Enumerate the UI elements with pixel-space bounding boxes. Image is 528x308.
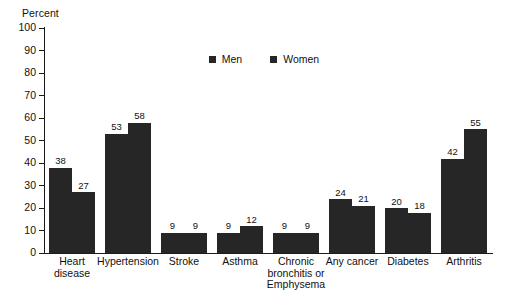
bar-group: 912	[217, 28, 263, 253]
bar-group: 99	[161, 28, 207, 253]
bar-value-label: 9	[170, 221, 175, 231]
bar-men: 9	[161, 233, 184, 253]
bar-value-label: 18	[414, 201, 425, 211]
bar-value-label: 53	[111, 122, 122, 132]
bar-women: 27	[72, 192, 95, 253]
bar-value-label: 38	[55, 156, 66, 166]
bar-women: 9	[184, 233, 207, 253]
bar-value-label: 27	[78, 181, 89, 191]
bar-men: 53	[105, 134, 128, 253]
y-axis-tick-label: 60	[24, 111, 36, 123]
bar-value-label: 9	[193, 221, 198, 231]
y-axis-title: Percent	[22, 7, 59, 19]
category-label-line: disease	[38, 268, 106, 280]
y-axis-tick-label: 0	[30, 246, 36, 258]
bar-women: 9	[296, 233, 319, 253]
bar-value-label: 9	[305, 221, 310, 231]
bar-group: 2018	[385, 28, 431, 253]
bar-group: 5358	[105, 28, 151, 253]
y-axis-tick-label: 80	[24, 66, 36, 78]
bar-women: 18	[408, 213, 431, 254]
bar-group: 4255	[441, 28, 487, 253]
bar-men: 38	[49, 168, 72, 254]
bar-value-label: 9	[226, 221, 231, 231]
bar-group: 3827	[49, 28, 95, 253]
bar-women: 21	[352, 206, 375, 253]
y-axis-tick-label: 10	[24, 224, 36, 236]
y-axis-tick-label: 30	[24, 179, 36, 191]
y-axis-tick-label: 40	[24, 156, 36, 168]
x-axis-line	[44, 253, 493, 254]
bar-value-label: 21	[358, 194, 369, 204]
bar-chart: Percent 1009080706050403020100 382753589…	[0, 0, 528, 308]
bar-value-label: 24	[335, 188, 346, 198]
bar-men: 20	[385, 208, 408, 253]
bar-men: 9	[217, 233, 240, 253]
bar-value-label: 9	[282, 221, 287, 231]
bar-value-label: 58	[134, 111, 145, 121]
bar-value-label: 55	[470, 118, 481, 128]
bar-value-label: 42	[447, 147, 458, 157]
bar-value-label: 12	[246, 215, 257, 225]
x-axis-category-labels: HeartdiseaseHypertensionStrokeAsthmaChro…	[44, 256, 492, 304]
bar-men: 24	[329, 199, 352, 253]
y-axis-tick-label: 100	[18, 21, 36, 33]
bar-group: 2421	[329, 28, 375, 253]
bar-women: 55	[464, 129, 487, 253]
bar-men: 9	[273, 233, 296, 253]
category-label-line: Arthritis	[430, 256, 498, 268]
x-axis-category-label: Arthritis	[430, 256, 498, 268]
bar-group: 99	[273, 28, 319, 253]
category-label-line: Emphysema	[262, 279, 330, 291]
bar-groups: 382753589991299242120184255	[44, 28, 492, 253]
y-axis-tick-label: 70	[24, 89, 36, 101]
y-axis-tick-label: 20	[24, 201, 36, 213]
bar-women: 58	[128, 123, 151, 254]
y-axis-tick-label: 90	[24, 44, 36, 56]
bar-women: 12	[240, 226, 263, 253]
bar-men: 42	[441, 159, 464, 254]
bar-value-label: 20	[391, 197, 402, 207]
y-axis-tick-label: 50	[24, 134, 36, 146]
plot-area: 1009080706050403020100 38275358999129924…	[44, 28, 492, 253]
footnote-text	[10, 302, 518, 308]
